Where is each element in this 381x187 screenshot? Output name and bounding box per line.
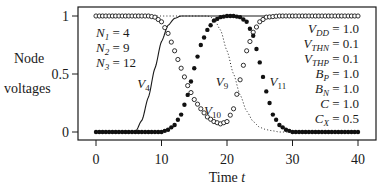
data-point: [248, 27, 252, 31]
y-axis-ticks: 00.51: [52, 9, 79, 140]
data-point: [205, 28, 209, 32]
parameter-label: CX = 0.5: [315, 111, 359, 128]
data-point: [166, 31, 170, 35]
curve-label-v10: V10: [204, 103, 221, 120]
y-tick-label: 0.5: [52, 67, 70, 82]
x-axis-ticks: 010203040: [93, 140, 366, 167]
parameters-left: N1 = 4N2 = 9N3 = 12: [95, 25, 136, 72]
data-point: [228, 113, 232, 117]
data-point: [176, 57, 180, 61]
data-point: [176, 118, 180, 122]
data-point: [267, 101, 271, 105]
x-axis-label-var: t: [241, 170, 246, 185]
y-tick-label: 1: [62, 9, 69, 24]
y-axis-label-line2: voltages: [4, 82, 51, 96]
data-point: [189, 79, 193, 83]
parameter-label: C = 1.0: [320, 96, 359, 111]
data-point: [186, 93, 190, 97]
data-point: [274, 118, 278, 122]
data-point: [186, 84, 190, 88]
data-point: [169, 40, 173, 44]
curve-labels: V4V9V10V11: [137, 74, 286, 120]
data-point: [225, 119, 229, 123]
data-point: [258, 60, 262, 64]
x-tick-label: 10: [155, 152, 169, 167]
data-point: [173, 49, 177, 53]
parameter-label: N3 = 12: [95, 55, 136, 72]
data-point: [238, 78, 242, 82]
data-point: [245, 49, 249, 53]
y-tick-label: 0: [62, 125, 69, 140]
x-tick-label: 30: [286, 152, 300, 167]
data-point: [179, 66, 183, 70]
data-point: [163, 26, 167, 30]
data-point: [235, 92, 239, 96]
data-point: [202, 35, 206, 39]
curve-label-v11: V11: [270, 74, 287, 91]
data-point: [195, 54, 199, 58]
curve-label-v9: V9: [216, 74, 229, 91]
data-point: [182, 103, 186, 107]
data-point: [231, 107, 235, 111]
data-point: [356, 14, 360, 18]
data-point: [208, 23, 212, 27]
data-point: [159, 20, 163, 24]
data-point: [248, 39, 252, 43]
x-axis-label: Time t: [209, 170, 247, 185]
curve-label-v4: V4: [137, 76, 150, 93]
data-point: [254, 47, 258, 51]
data-point: [264, 89, 268, 93]
data-point: [254, 25, 258, 29]
data-point: [172, 123, 176, 127]
parameters-right: VDD = 1.0VTHN = 0.1VTHP = 0.1BP = 1.0BN …: [303, 21, 359, 128]
data-point: [199, 107, 203, 111]
data-point: [192, 66, 196, 70]
data-point: [179, 112, 183, 116]
node-voltages-chart: 00.51 010203040 N1 = 4N2 = 9N3 = 12 VDD …: [0, 0, 381, 187]
data-point: [192, 97, 196, 101]
y-axis-label-line1: Node: [14, 52, 44, 66]
data-point: [251, 34, 255, 38]
data-point: [244, 20, 248, 24]
x-tick-label: 0: [93, 152, 100, 167]
data-point: [271, 112, 275, 116]
data-point: [356, 130, 360, 134]
data-point: [261, 75, 265, 79]
data-point: [182, 75, 186, 79]
data-point: [195, 102, 199, 106]
x-tick-label: 40: [351, 152, 365, 167]
x-axis-label-main: Time: [209, 170, 238, 185]
x-tick-label: 20: [220, 152, 234, 167]
data-point: [199, 43, 203, 47]
data-point: [241, 63, 245, 67]
